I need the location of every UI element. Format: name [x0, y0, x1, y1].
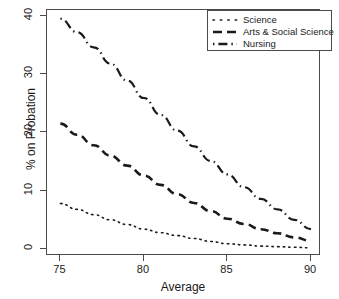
dotted-line-key	[212, 15, 238, 25]
legend-label-science: Science	[243, 15, 277, 25]
dashdot-line-key	[212, 39, 238, 49]
x-axis-title: Average	[46, 280, 320, 294]
x-tick-label: 90	[290, 263, 330, 275]
legend-label-arts-social-science: Arts & Social Science	[243, 27, 334, 37]
x-tick-label: 75	[39, 263, 79, 275]
legend-label-nursing: Nursing	[243, 39, 276, 49]
legend-item-science: Science	[212, 14, 327, 25]
x-tick-mark	[143, 255, 144, 261]
series-line-science	[60, 204, 311, 248]
y-tick-mark	[40, 131, 46, 132]
y-tick-mark	[40, 248, 46, 249]
y-tick-label: 10	[22, 180, 34, 198]
x-tick-mark	[310, 255, 311, 261]
legend-item-arts-social-science: Arts & Social Science	[212, 26, 327, 37]
chart-figure: Science Arts & Social Science Nursing Av…	[0, 0, 339, 299]
x-tick-label: 80	[123, 263, 163, 275]
y-tick-mark	[40, 190, 46, 191]
dashed-line-key	[212, 27, 238, 37]
y-tick-label: 20	[22, 121, 34, 139]
y-tick-mark	[40, 15, 46, 16]
y-tick-mark	[40, 73, 46, 74]
y-tick-label: 0	[22, 238, 34, 256]
y-tick-label: 30	[22, 63, 34, 81]
chart-legend: Science Arts & Social Science Nursing	[207, 10, 332, 51]
x-tick-label: 85	[206, 263, 246, 275]
legend-item-nursing: Nursing	[212, 38, 327, 49]
x-tick-mark	[226, 255, 227, 261]
x-tick-mark	[59, 255, 60, 261]
y-tick-label: 40	[22, 5, 34, 23]
series-line-arts-social-science	[60, 124, 311, 241]
cropped-title-remnant	[120, 0, 339, 5]
